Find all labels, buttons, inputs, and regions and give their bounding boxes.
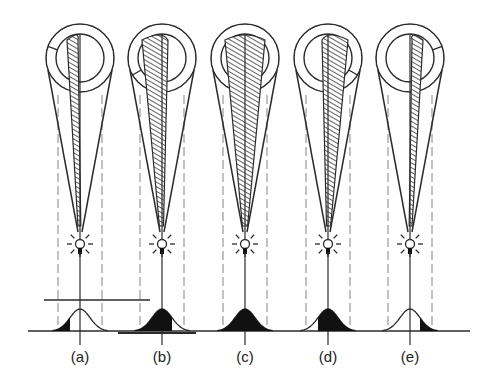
intensity-filled-area [420, 318, 438, 331]
cone-edge-right [82, 70, 112, 232]
panel-a [46, 24, 114, 345]
panel-label-e: (e) [401, 348, 419, 365]
panel-label-d: (d) [319, 348, 337, 365]
cone-aperture-diagram: (a)(b)(c)(d)(e) [0, 0, 488, 389]
panel-e [376, 24, 444, 345]
cone-edge-right [164, 70, 194, 232]
panel-c [211, 24, 279, 345]
panel-d [294, 24, 362, 345]
hatched-beam [67, 35, 81, 226]
hatched-beam [409, 35, 423, 226]
panel-label-a: (a) [71, 348, 89, 365]
panel-label-c: (c) [236, 348, 254, 365]
panel-b [128, 24, 196, 345]
cone-edge-left [296, 70, 326, 232]
panel-label-b: (b) [153, 348, 171, 365]
hatched-beam [322, 35, 348, 226]
intensity-filled-area [52, 318, 70, 331]
cone-edge-left [378, 70, 408, 232]
hatched-beam [142, 35, 168, 226]
